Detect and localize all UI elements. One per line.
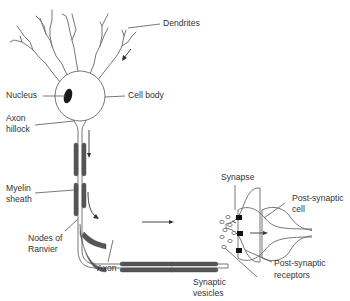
label-nodes-of-ranvier-line1: Nodes of [28, 233, 63, 243]
label-post-synaptic-cell-line2: cell [292, 204, 305, 214]
label-myelin-sheath-line1: Myelin [6, 183, 31, 193]
label-axon-hillock-line1: Axon [6, 113, 26, 123]
myelin-sheath [74, 143, 218, 272]
label-synapse: Synapse [221, 172, 255, 182]
label-axon-hillock-line2: hillock [6, 124, 31, 134]
labels: Dendrites Nucleus Cell body Axon hillock… [6, 18, 344, 298]
label-nodes-of-ranvier-line2: Ranvier [28, 244, 58, 254]
label-post-synaptic-receptors-line1: Post-synaptic [274, 258, 326, 268]
label-axon: Axon [97, 263, 117, 273]
neuron-diagram: Dendrites Nucleus Cell body Axon hillock… [0, 0, 350, 301]
label-myelin-sheath-line2: sheath [6, 194, 32, 204]
label-nucleus: Nucleus [6, 90, 37, 100]
label-dendrites: Dendrites [163, 18, 200, 28]
post-synaptic-cell [262, 207, 312, 260]
dendrite-signal-arrow [122, 49, 131, 61]
label-synaptic-vesicles-line1: Synaptic [193, 277, 227, 287]
label-synaptic-vesicles-line2: vesicles [193, 288, 224, 298]
dendrites [10, 10, 136, 82]
label-post-synaptic-receptors-line2: receptors [274, 270, 310, 280]
label-cell-body: Cell body [128, 90, 165, 100]
label-post-synaptic-cell-line1: Post-synaptic [292, 193, 344, 203]
